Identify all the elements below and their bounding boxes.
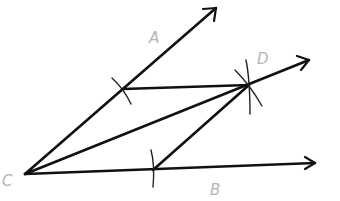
ray-cb	[25, 163, 315, 174]
label-a: A	[148, 29, 159, 47]
ray-ca	[25, 8, 216, 174]
segment-pd	[123, 85, 249, 89]
geometry-diagram: A D C B	[0, 0, 340, 201]
label-d: D	[257, 50, 269, 68]
label-b: B	[210, 181, 220, 199]
label-c: C	[2, 172, 13, 190]
segment-qd	[153, 85, 249, 170]
